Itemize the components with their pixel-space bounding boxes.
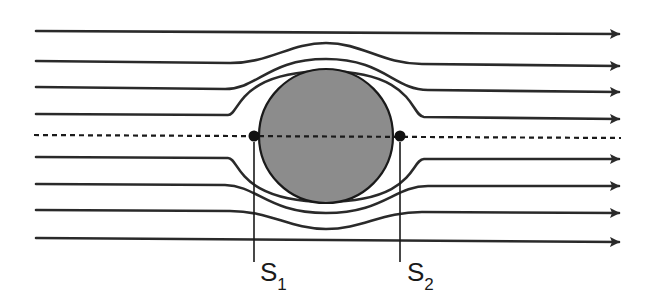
label-s1-main: S bbox=[260, 257, 277, 287]
label-s1: S1 bbox=[260, 257, 287, 294]
label-s1-sub: 1 bbox=[277, 275, 286, 294]
stagnation-dot-s1 bbox=[249, 131, 260, 142]
streamline-top-2 bbox=[36, 43, 619, 66]
streamline-top-1 bbox=[36, 31, 619, 34]
streamline-bottom-1 bbox=[36, 238, 619, 242]
label-s2-main: S bbox=[407, 257, 424, 287]
flow-diagram: S1 S2 bbox=[0, 0, 649, 302]
label-s2-sub: 2 bbox=[424, 275, 433, 294]
stagnation-dot-s2 bbox=[395, 131, 406, 142]
label-s2: S2 bbox=[407, 257, 434, 294]
